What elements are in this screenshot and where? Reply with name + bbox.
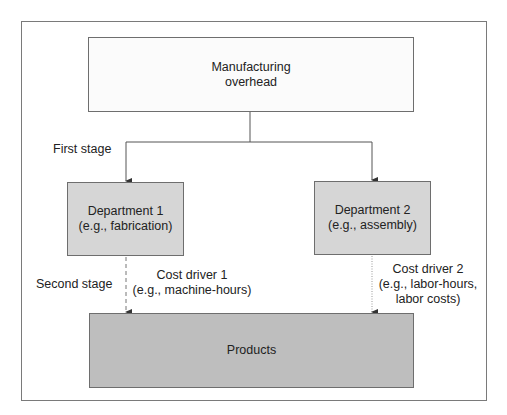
department-2-box: Department 2 (e.g., assembly) xyxy=(314,181,431,255)
dept2-line1: Department 2 xyxy=(335,203,411,218)
dept1-line1: Department 1 xyxy=(88,204,164,219)
top-box-line1: Manufacturing xyxy=(211,60,290,75)
cost-driver-2-line3: labor costs) xyxy=(378,292,478,307)
manufacturing-overhead-box: Manufacturing overhead xyxy=(88,37,414,112)
cost-driver-1-line1: Cost driver 1 xyxy=(132,268,252,283)
cost-driver-2-line2: (e.g., labor-hours, xyxy=(378,277,478,292)
first-stage-label: First stage xyxy=(53,142,111,157)
products-box: Products xyxy=(89,313,414,388)
top-box-line2: overhead xyxy=(225,75,277,90)
cost-driver-1-line2: (e.g., machine-hours) xyxy=(132,283,252,298)
department-1-box: Department 1 (e.g., fabrication) xyxy=(67,182,184,256)
second-stage-label: Second stage xyxy=(36,277,112,292)
dept1-line2: (e.g., fabrication) xyxy=(79,219,173,234)
cost-driver-2-line1: Cost driver 2 xyxy=(378,262,478,277)
products-label: Products xyxy=(227,343,276,358)
cost-driver-1-label: Cost driver 1 (e.g., machine-hours) xyxy=(132,268,252,298)
cost-driver-2-label: Cost driver 2 (e.g., labor-hours, labor … xyxy=(378,262,478,307)
dept2-line2: (e.g., assembly) xyxy=(328,218,417,233)
